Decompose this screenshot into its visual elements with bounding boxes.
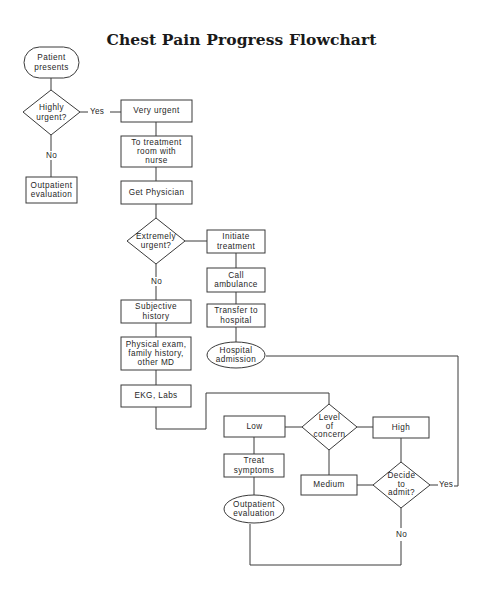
- edge-label-extremely-urgent-no: No: [150, 277, 163, 286]
- node-transfer-hospital: Transfer to hospital: [207, 304, 265, 327]
- node-high: High: [373, 417, 429, 438]
- node-physical-exam: Physical exam, family history, other MD: [121, 337, 191, 370]
- node-subjective-history: Subjective history: [121, 300, 191, 323]
- edge-decide-no-b: [250, 524, 401, 565]
- node-low: Low: [224, 416, 285, 437]
- node-patient-presents: Patient presents: [24, 47, 79, 78]
- node-extremely-urgent: Extremely urgent?: [127, 218, 185, 264]
- node-hospital-admission: Hospital admission: [207, 342, 265, 368]
- node-level-of-concern: Level of concern: [302, 404, 357, 450]
- edge-label-highly-urgent-yes: Yes: [89, 107, 105, 116]
- node-outpatient-eval-2: Outpatient evaluation: [224, 495, 284, 523]
- node-initiate-treatment: Initiate treatment: [207, 230, 265, 253]
- edge-label-decide-admit-no: No: [395, 530, 408, 539]
- node-call-ambulance: Call ambulance: [207, 268, 265, 292]
- node-highly-urgent: Highly urgent?: [23, 90, 80, 135]
- node-very-urgent: Very urgent: [121, 100, 192, 122]
- edge-label-decide-admit-yes: Yes: [438, 480, 454, 489]
- node-decide-admit: Decide to admit?: [373, 462, 430, 508]
- node-medium: Medium: [301, 475, 357, 495]
- node-get-physician: Get Physician: [121, 181, 192, 204]
- node-treat-symptoms: Treat symptoms: [224, 454, 284, 477]
- node-treatment-room: To treatment room with nurse: [121, 136, 192, 167]
- edge-label-highly-urgent-no: No: [45, 151, 58, 160]
- node-ekg-labs: EKG, Labs: [121, 385, 191, 407]
- node-outpatient-eval-1: Outpatient evaluation: [26, 177, 77, 203]
